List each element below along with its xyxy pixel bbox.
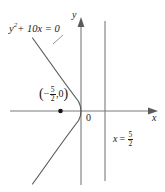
directrix-equals-sign: = — [119, 134, 125, 144]
directrix-label: x = 5 2 — [113, 131, 134, 148]
directrix-fraction-denominator: 2 — [128, 139, 134, 148]
origin-label: 0 — [86, 113, 91, 123]
y-axis-label: y — [72, 10, 76, 20]
y-axis-arrowhead — [78, 17, 85, 27]
focus-point-marker — [58, 109, 63, 114]
equation-rest: + 10x = 0 — [17, 23, 59, 34]
directrix-fraction: 5 2 — [128, 131, 134, 148]
equation-leader-line — [53, 35, 63, 44]
focus-point-label: ( − 5 2 ,0 ) — [39, 86, 68, 103]
directrix-fraction-numerator: 5 — [128, 131, 134, 139]
focus-minus-sign: − — [44, 89, 50, 99]
focus-fraction-denominator: 2 — [50, 94, 56, 103]
x-axis-label: x — [152, 113, 156, 123]
equation-label: y2+ 10x = 0 — [9, 22, 60, 34]
focus-fraction: 5 2 — [50, 86, 56, 103]
focus-comma-zero: ,0 — [56, 89, 64, 99]
focus-fraction-numerator: 5 — [50, 86, 56, 94]
directrix-variable: x — [113, 134, 117, 144]
focus-close-paren: ) — [64, 87, 69, 101]
parabola-figure: y2+ 10x = 0 y x 0 ( − 5 2 ,0 ) x = 5 2 — [0, 0, 165, 192]
